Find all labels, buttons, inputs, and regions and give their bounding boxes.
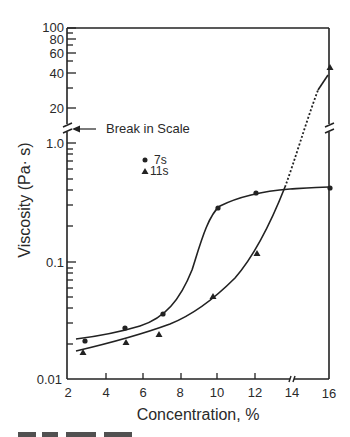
x-ticks (106, 373, 255, 379)
data-point (82, 338, 87, 343)
plot-frame (67, 28, 329, 379)
x-tick-6: 6 (139, 385, 146, 400)
x-tick-labels: 2 4 6 8 10 12 14 16 (64, 385, 336, 401)
y-ticks-upper (67, 28, 76, 108)
y-tick-40: 40 (50, 66, 64, 81)
legend: 7s 11s (142, 153, 169, 178)
curve-11s (76, 187, 285, 351)
arrow-left-icon (72, 126, 80, 133)
data-point (327, 185, 332, 190)
curve-11s-top (318, 75, 328, 90)
caption-fragment (18, 432, 132, 437)
y-tick-0.01: 0.01 (37, 372, 62, 387)
x-axis-title: Concentration, % (137, 406, 260, 423)
curve-7s (76, 187, 329, 339)
axis-break-marks (63, 123, 334, 382)
y-ticks-lower (67, 143, 76, 344)
y-tick-labels: 100 80 60 40 20 1.0 0.1 0.01 (37, 20, 64, 387)
break-annotation: Break in Scale (72, 121, 190, 136)
series-11s-points (80, 64, 334, 355)
data-point (327, 64, 334, 70)
data-point (123, 339, 130, 345)
y-tick-1: 1.0 (46, 136, 64, 151)
x-tick-8: 8 (176, 385, 183, 400)
data-point (215, 205, 220, 210)
curve-11s-dotted (285, 90, 318, 187)
x-tick-14: 14 (285, 385, 299, 400)
x-tick-10: 10 (210, 385, 224, 400)
data-point (122, 325, 127, 330)
data-point (156, 331, 163, 337)
y-tick-0.1: 0.1 (46, 255, 64, 270)
y-tick-80: 80 (50, 32, 64, 47)
data-point (160, 311, 165, 316)
x-tick-12: 12 (248, 385, 262, 400)
series-7s-points (82, 185, 332, 343)
legend-triangle-icon (142, 168, 149, 174)
break-in-scale-label: Break in Scale (106, 121, 190, 136)
viscosity-chart: 100 80 60 40 20 1.0 0.1 0.01 2 4 6 8 10 … (0, 0, 350, 437)
data-point (253, 190, 258, 195)
y-axis-title: Viscosity (Pa· s) (16, 142, 33, 257)
y-tick-20: 20 (50, 101, 64, 116)
x-tick-2: 2 (64, 385, 71, 400)
legend-label-11s: 11s (150, 164, 168, 178)
legend-circle-icon (143, 158, 148, 163)
x-tick-16: 16 (322, 386, 336, 401)
x-tick-4: 4 (102, 385, 109, 400)
y-tick-60: 60 (50, 46, 64, 61)
